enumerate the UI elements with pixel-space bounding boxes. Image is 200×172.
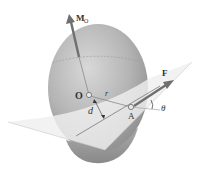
point-a-label: A	[128, 111, 135, 121]
moment-arrow-head	[66, 14, 75, 24]
force-label: F	[162, 68, 168, 78]
origin-label: O	[75, 90, 83, 101]
moment-subscript: O	[84, 18, 89, 24]
origin-point	[86, 92, 91, 97]
point-a	[128, 104, 133, 109]
angle-label: θ	[161, 103, 166, 113]
moment-diagram: M O O r d A F θ	[0, 0, 200, 172]
